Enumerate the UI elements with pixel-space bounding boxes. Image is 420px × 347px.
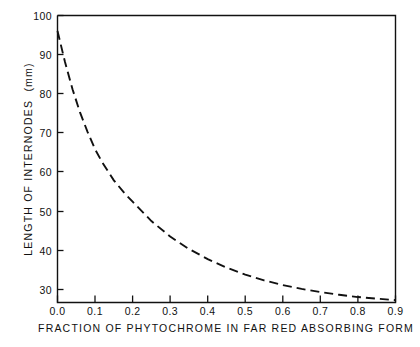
x-tick-label: 0.2 — [125, 305, 141, 317]
x-tick-label: 0.4 — [200, 305, 216, 317]
y-tick-label: 50 — [40, 206, 52, 218]
x-tick-label: 0.9 — [388, 305, 404, 317]
x-axis-title: FRACTION OF PHYTOCHROME IN FAR RED ABSOR… — [38, 322, 414, 334]
y-axis-title: LENGTH OF INTERNODES (mm) — [22, 62, 34, 255]
y-tick-label: 60 — [40, 166, 52, 178]
y-tick-label: 90 — [40, 49, 52, 61]
y-tick-label: 100 — [33, 10, 52, 22]
y-tick-label: 40 — [40, 245, 52, 257]
x-tick-label: 0.5 — [237, 305, 253, 317]
x-tick-label: 0.0 — [50, 305, 66, 317]
internode-length-chart: 100 90 80 70 60 50 40 30 0.0 0.1 0.2 0.3… — [0, 0, 420, 347]
y-tick-label: 70 — [40, 127, 52, 139]
y-tick-label: 30 — [40, 284, 52, 296]
x-tick-label: 0.1 — [87, 305, 103, 317]
y-tick-label: 80 — [40, 88, 52, 100]
x-tick-label: 0.7 — [312, 305, 328, 317]
x-tick-label: 0.8 — [350, 305, 366, 317]
x-tick-label: 0.6 — [275, 305, 291, 317]
x-tick-label: 0.3 — [162, 305, 178, 317]
